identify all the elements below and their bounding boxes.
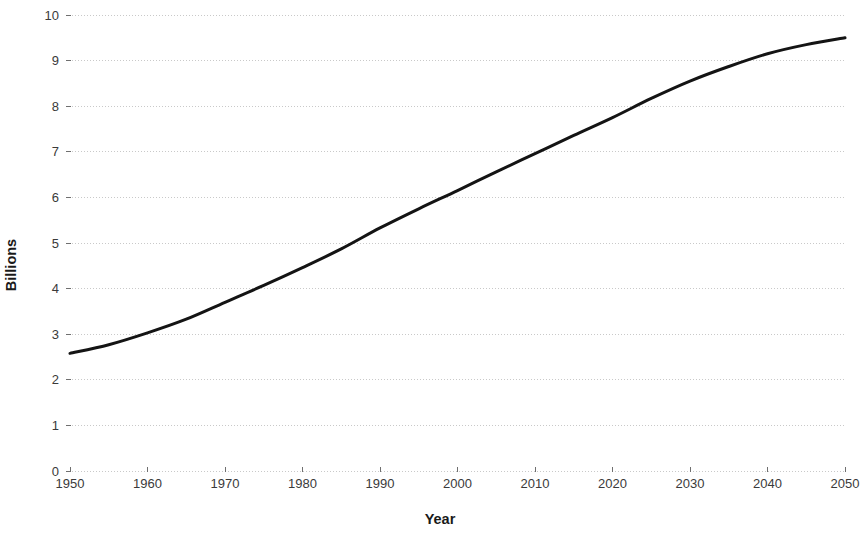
x-axis-tick-label: 1970 (211, 476, 240, 491)
x-axis-tick-label: 2050 (831, 476, 860, 491)
x-axis-tick-label: 2020 (598, 476, 627, 491)
y-axis-tick-label: 4 (52, 281, 59, 296)
y-axis-tick-label: 2 (52, 372, 59, 387)
y-axis-tick-label: 5 (52, 236, 59, 251)
x-axis-tick-label: 1980 (288, 476, 317, 491)
x-axis-title: Year (425, 511, 456, 527)
chart-canvas: 012345678910 195019601970198019902000201… (0, 0, 863, 534)
y-axis-tick-label: 9 (52, 53, 59, 68)
x-axis-tick-label: 1990 (366, 476, 395, 491)
y-axis-title: Billions (3, 239, 19, 291)
x-axis-tick-label: 2030 (676, 476, 705, 491)
x-axis-tick-label: 1950 (56, 476, 85, 491)
x-axis-tick-label: 2040 (753, 476, 782, 491)
y-axis-tick-label: 6 (52, 190, 59, 205)
y-axis-tick-label: 8 (52, 99, 59, 114)
x-axis-tick-label: 2010 (521, 476, 550, 491)
x-axis-tick-label: 1960 (133, 476, 162, 491)
y-axis-tick-label: 3 (52, 327, 59, 342)
y-axis-tick-label: 10 (45, 8, 59, 23)
y-axis-tick-label: 1 (52, 418, 59, 433)
chart-background (0, 0, 863, 534)
y-axis-tick-label: 7 (52, 144, 59, 159)
population-line-chart: 012345678910 195019601970198019902000201… (0, 0, 863, 534)
x-axis-tick-label: 2000 (443, 476, 472, 491)
